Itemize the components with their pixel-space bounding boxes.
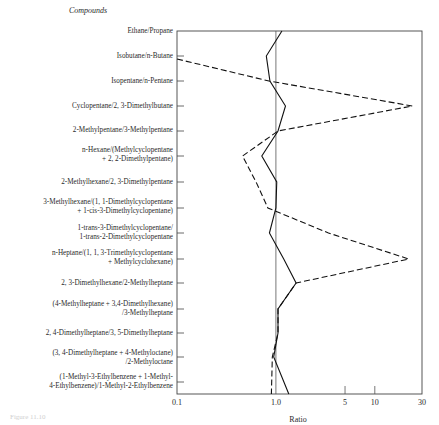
figure-caption: Figure 11.10 — [10, 413, 46, 421]
x-tick-label: 1.0 — [271, 398, 281, 407]
ratio-chart: 0.11.051030Ratio — [0, 0, 439, 425]
x-tick-label: 30 — [418, 398, 426, 407]
x-tick-label: 10 — [371, 398, 379, 407]
dashed-series-line — [177, 59, 412, 394]
x-tick-label: 0.1 — [172, 398, 182, 407]
plot-frame — [177, 31, 422, 394]
x-tick-label: 5 — [343, 398, 347, 407]
x-axis-title: Ratio — [289, 415, 306, 424]
